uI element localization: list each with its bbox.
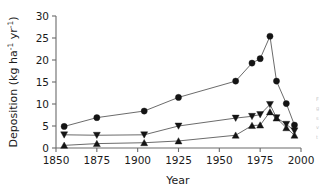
y-axis-title-tail: ) bbox=[7, 17, 20, 21]
x-tick-label-1925: 1925 bbox=[165, 154, 192, 166]
x-tick-label-1875: 1875 bbox=[83, 154, 110, 166]
caption-line: s bbox=[316, 114, 329, 123]
figure-container: 051015202530 Deposition (kg ha-1 yr-1) 1… bbox=[0, 0, 329, 190]
x-tick-label-1975: 1975 bbox=[247, 154, 274, 166]
deposition-vs-year-chart: 051015202530 Deposition (kg ha-1 yr-1) 1… bbox=[0, 0, 329, 190]
x-axis: 1850187519001925195019752000 Year bbox=[43, 148, 315, 187]
x-tick-marks bbox=[56, 148, 301, 152]
caption-line: t bbox=[316, 133, 329, 142]
y-tick-label-0: 0 bbox=[42, 142, 49, 154]
data-point-circle bbox=[249, 60, 255, 66]
data-point-circle bbox=[257, 56, 263, 62]
data-point-circle bbox=[233, 78, 239, 84]
data-series-layer bbox=[61, 33, 298, 148]
x-tick-label-1850: 1850 bbox=[43, 154, 70, 166]
y-tick-label-20: 20 bbox=[36, 54, 49, 66]
data-point-circle bbox=[175, 94, 181, 100]
data-point-circle bbox=[267, 33, 273, 39]
y-tick-label-15: 15 bbox=[36, 76, 49, 88]
y-tick-label-25: 25 bbox=[36, 32, 49, 44]
y-axis-title-main: Deposition (kg ha bbox=[7, 50, 20, 147]
x-axis-title: Year bbox=[165, 174, 190, 187]
series-circle-series bbox=[61, 33, 298, 129]
data-point-circle bbox=[61, 123, 67, 129]
y-axis: 051015202530 Deposition (kg ha-1 yr-1) bbox=[6, 10, 57, 154]
y-tick-label-30: 30 bbox=[36, 10, 49, 22]
data-point-circle bbox=[291, 122, 297, 128]
data-point-circle bbox=[273, 78, 279, 84]
x-tick-label-1900: 1900 bbox=[124, 154, 151, 166]
y-axis-title: Deposition (kg ha-1 yr-1) bbox=[6, 17, 21, 148]
x-tick-label-1950: 1950 bbox=[206, 154, 233, 166]
caption-line: F bbox=[316, 95, 329, 104]
y-axis-title-mid: yr bbox=[7, 28, 20, 43]
y-tick-label-10: 10 bbox=[36, 98, 49, 110]
data-point-circle bbox=[283, 100, 289, 106]
x-tick-label-2000: 2000 bbox=[288, 154, 315, 166]
y-tick-labels: 051015202530 bbox=[36, 10, 49, 154]
x-tick-labels: 1850187519001925195019752000 bbox=[43, 154, 315, 166]
y-tick-label-5: 5 bbox=[42, 120, 49, 132]
data-point-circle bbox=[141, 108, 147, 114]
data-point-circle bbox=[94, 115, 100, 121]
clipped-caption-text: Fgsvt bbox=[316, 95, 329, 177]
caption-line: v bbox=[316, 123, 329, 132]
caption-line: g bbox=[316, 104, 329, 113]
y-tick-marks bbox=[52, 16, 56, 148]
